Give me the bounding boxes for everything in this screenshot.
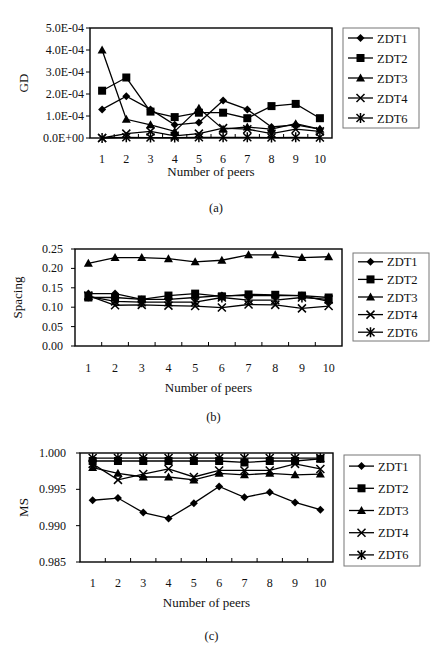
zdt1-marker bbox=[291, 498, 299, 506]
y-tick-label: 0.05 bbox=[42, 320, 63, 334]
series-zdt3 bbox=[84, 250, 333, 267]
y-axis-title: Spacing bbox=[10, 276, 25, 318]
legend-label: ZDT3 bbox=[387, 291, 418, 305]
x-tick-label: 8 bbox=[272, 361, 278, 375]
legend-label: ZDT1 bbox=[387, 255, 418, 269]
legend-label: ZDT2 bbox=[377, 52, 408, 66]
x-axis-title: Number of peers bbox=[165, 380, 252, 395]
y-tick-label: 0.15 bbox=[42, 281, 63, 295]
legend-label: ZDT1 bbox=[378, 460, 409, 474]
y-tick-label: 0.0E+00 bbox=[43, 131, 84, 145]
series-zdt2 bbox=[89, 455, 325, 467]
zdt2-marker bbox=[122, 74, 130, 82]
series-zdt2 bbox=[98, 74, 324, 123]
legend-label: ZDT4 bbox=[377, 92, 408, 106]
zdt1-marker bbox=[240, 493, 248, 501]
zdt1-marker bbox=[122, 92, 130, 100]
x-tick-label: 9 bbox=[293, 152, 299, 166]
legend-label: ZDT6 bbox=[387, 326, 418, 340]
x-tick-label: 6 bbox=[219, 361, 225, 375]
y-tick-label: 3.0E-04 bbox=[46, 65, 84, 79]
x-tick-label: 5 bbox=[191, 576, 197, 590]
x-tick-label: 10 bbox=[314, 576, 326, 590]
zdt1-marker bbox=[89, 496, 97, 504]
legend-label: ZDT6 bbox=[377, 112, 408, 126]
y-tick-label: 5.0E-04 bbox=[46, 21, 84, 35]
zdt1-marker bbox=[316, 506, 324, 514]
legend-label: ZDT2 bbox=[378, 482, 409, 496]
series-zdt6 bbox=[98, 132, 324, 143]
legend-zdt2-marker bbox=[367, 275, 375, 283]
zdt3-marker bbox=[194, 104, 203, 112]
x-tick-label: 8 bbox=[267, 576, 273, 590]
x-tick-label: 3 bbox=[139, 361, 145, 375]
zdt1-marker bbox=[190, 499, 198, 507]
zdt2-marker bbox=[191, 290, 199, 298]
y-tick-label: 0.00 bbox=[42, 339, 63, 353]
x-tick-label: 2 bbox=[123, 152, 129, 166]
zdt2-marker bbox=[292, 100, 300, 108]
legend-label: ZDT6 bbox=[378, 548, 409, 562]
figure: 0.0E+001.0E-042.0E-043.0E-044.0E-045.0E-… bbox=[0, 0, 441, 657]
zdt3-marker bbox=[122, 115, 131, 123]
chart-c: 0.9850.9900.9951.00012345678910Number of… bbox=[16, 446, 420, 643]
zdt1-marker bbox=[165, 514, 173, 522]
y-tick-label: 0.10 bbox=[42, 300, 63, 314]
y-tick-label: 0.25 bbox=[42, 242, 63, 256]
series-zdt4 bbox=[98, 124, 324, 142]
series-zdt1 bbox=[89, 482, 325, 522]
zdt2-marker bbox=[316, 114, 324, 122]
x-tick-label: 9 bbox=[299, 361, 305, 375]
x-axis-title: Number of peers bbox=[163, 595, 250, 610]
chart-a: 0.0E+001.0E-042.0E-043.0E-044.0E-045.0E-… bbox=[16, 21, 419, 215]
legend-label: ZDT4 bbox=[378, 526, 409, 540]
y-tick-label: 0.20 bbox=[42, 261, 63, 275]
y-tick-label: 1.000 bbox=[39, 446, 66, 460]
zdt1-marker bbox=[215, 482, 223, 490]
zdt2-marker bbox=[219, 109, 227, 117]
zdt2-marker bbox=[268, 102, 276, 110]
y-axis-title: MS bbox=[16, 498, 31, 517]
x-tick-label: 4 bbox=[166, 576, 172, 590]
series-zdt3 bbox=[98, 46, 325, 135]
y-tick-label: 2.0E-04 bbox=[46, 87, 84, 101]
legend: ZDT1ZDT2ZDT3ZDT4ZDT6 bbox=[353, 253, 429, 341]
x-tick-label: 6 bbox=[216, 576, 222, 590]
x-tick-label: 10 bbox=[323, 361, 335, 375]
x-tick-label: 1 bbox=[90, 576, 96, 590]
zdt3-marker bbox=[98, 46, 107, 54]
zdt1-marker bbox=[98, 105, 106, 113]
x-tick-label: 4 bbox=[165, 361, 171, 375]
legend-label: ZDT3 bbox=[378, 504, 409, 518]
x-tick-label: 1 bbox=[99, 152, 105, 166]
x-tick-label: 3 bbox=[140, 576, 146, 590]
legend-label: ZDT1 bbox=[377, 32, 408, 46]
legend: ZDT1ZDT2ZDT3ZDT4ZDT6 bbox=[343, 28, 419, 128]
x-tick-label: 3 bbox=[148, 152, 154, 166]
x-tick-label: 10 bbox=[314, 152, 326, 166]
x-tick-label: 2 bbox=[112, 361, 118, 375]
x-tick-label: 7 bbox=[241, 576, 247, 590]
zdt2-marker bbox=[243, 114, 251, 122]
subfigure-caption: (b) bbox=[206, 410, 221, 424]
legend-zdt2-marker bbox=[357, 54, 365, 62]
legend-label: ZDT4 bbox=[387, 308, 418, 322]
x-axis-title: Number of peers bbox=[167, 164, 254, 179]
y-tick-label: 4.0E-04 bbox=[46, 43, 84, 57]
x-tick-label: 9 bbox=[292, 576, 298, 590]
subfigure-caption: (a) bbox=[209, 201, 223, 215]
x-tick-label: 2 bbox=[115, 576, 121, 590]
zdt1-marker bbox=[114, 494, 122, 502]
zdt2-marker bbox=[171, 113, 179, 121]
chart-b: 0.000.050.100.150.200.2512345678910Numbe… bbox=[10, 242, 429, 424]
x-tick-label: 7 bbox=[246, 361, 252, 375]
legend: ZDT1ZDT2ZDT3ZDT4ZDT6 bbox=[344, 455, 420, 566]
x-tick-label: 5 bbox=[192, 361, 198, 375]
zdt1-marker bbox=[139, 509, 147, 517]
legend-zdt2-marker bbox=[358, 484, 366, 492]
x-tick-label: 1 bbox=[85, 361, 91, 375]
legend-label: ZDT3 bbox=[377, 72, 408, 86]
y-tick-label: 1.0E-04 bbox=[46, 109, 84, 123]
legend-label: ZDT2 bbox=[387, 273, 418, 287]
y-tick-label: 0.985 bbox=[39, 555, 66, 569]
